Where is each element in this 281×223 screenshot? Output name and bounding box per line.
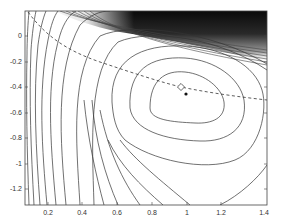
y-tick-label: -1 bbox=[16, 160, 22, 167]
x-tick-label: 0.4 bbox=[77, 209, 87, 216]
y-tick-label: -0.2 bbox=[10, 58, 22, 65]
y-tick-label: -0.6 bbox=[10, 109, 22, 116]
x-tick-label: 1 bbox=[185, 209, 189, 216]
filled-dot-marker bbox=[184, 92, 187, 95]
x-tick-label: 0.2 bbox=[43, 209, 53, 216]
x-tick-label: 0.8 bbox=[147, 209, 157, 216]
y-tick-label: -1.2 bbox=[10, 185, 22, 192]
y-tick-label: 0 bbox=[18, 32, 22, 39]
x-tick-label: 1.4 bbox=[259, 209, 269, 216]
open-diamond-marker bbox=[177, 83, 184, 90]
plot-area bbox=[25, 11, 267, 205]
x-axis bbox=[48, 202, 221, 205]
y-tick-label: -0.8 bbox=[10, 134, 22, 141]
contour-plot: 0 -0.2 -0.4 -0.6 -0.8 -1 -1.2 0.2 0.4 0.… bbox=[0, 0, 281, 223]
y-tick-label: -0.4 bbox=[10, 83, 22, 90]
x-tick-label: 1.2 bbox=[216, 209, 226, 216]
x-tick-label: 0.6 bbox=[112, 209, 122, 216]
